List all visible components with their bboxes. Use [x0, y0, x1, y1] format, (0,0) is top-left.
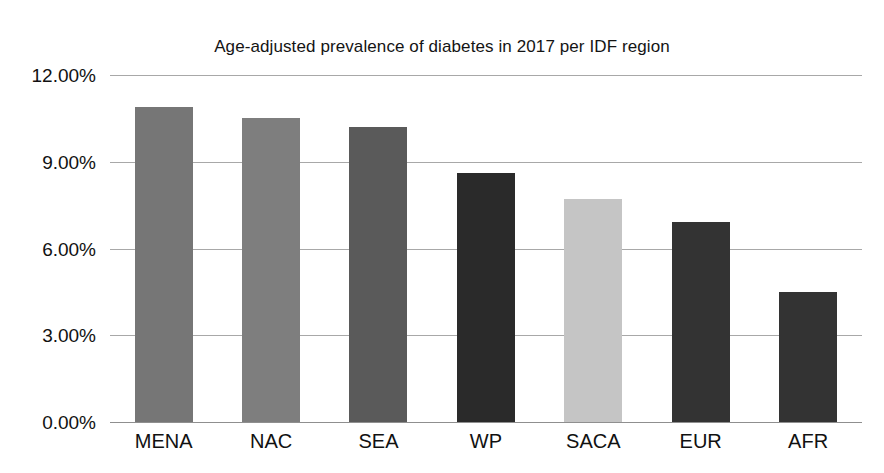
bar-nac — [242, 118, 300, 422]
x-axis-line — [110, 422, 862, 423]
xtick-label-eur: EUR — [647, 428, 754, 454]
x-axis-labels: MENA NAC SEA WP SACA EUR AFR — [110, 428, 862, 462]
ytick-label-0: 0.00% — [0, 413, 96, 432]
bar-saca — [564, 199, 622, 422]
xtick-label-wp: WP — [432, 428, 539, 454]
xtick-label-sea: SEA — [325, 428, 432, 454]
bar-group-saca — [540, 75, 647, 422]
bar-eur — [672, 222, 730, 422]
bar-group-sea — [325, 75, 432, 422]
bar-mena — [135, 107, 193, 422]
bar-afr — [779, 292, 837, 422]
ytick-label-6: 6.00% — [0, 240, 96, 259]
ytick-label-9: 9.00% — [0, 153, 96, 172]
bar-group-afr — [754, 75, 861, 422]
bar-group-mena — [110, 75, 217, 422]
chart-title: Age-adjusted prevalence of diabetes in 2… — [0, 36, 884, 58]
bar-group-eur — [647, 75, 754, 422]
xtick-label-afr: AFR — [754, 428, 861, 454]
bar-group-nac — [217, 75, 324, 422]
bar-sea — [349, 127, 407, 422]
xtick-label-mena: MENA — [110, 428, 217, 454]
ytick-label-3: 3.00% — [0, 326, 96, 345]
ytick-label-12: 12.00% — [0, 66, 96, 85]
bar-group-wp — [432, 75, 539, 422]
bar-wp — [457, 173, 515, 422]
bars-layer — [110, 75, 862, 422]
bar-chart: Age-adjusted prevalence of diabetes in 2… — [0, 0, 884, 473]
xtick-label-nac: NAC — [217, 428, 324, 454]
xtick-label-saca: SACA — [540, 428, 647, 454]
plot-area — [110, 75, 862, 422]
